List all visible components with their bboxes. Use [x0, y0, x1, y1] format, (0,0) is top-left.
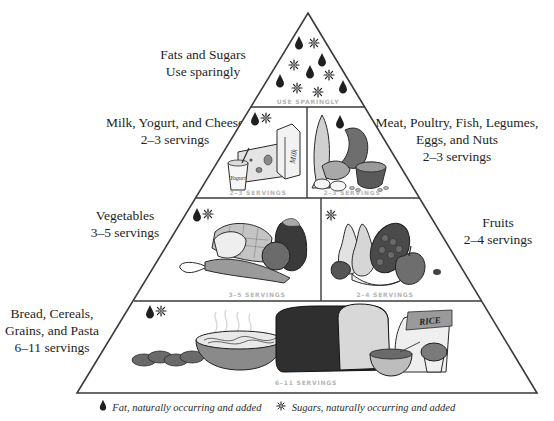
sugar-crystal-icon	[309, 38, 319, 48]
sugar-crystal-icon	[324, 70, 334, 80]
inner-label-vegetables: 3–5 SERVINGS	[228, 291, 285, 298]
legend-item-fat: Fat, naturally occurring and added	[99, 402, 264, 413]
sugar-crystal-icon	[261, 113, 271, 123]
sugar-crystal-icon	[292, 83, 302, 93]
inner-label-fruits: 2–4 SERVINGS	[356, 291, 413, 298]
cup-text: Yogurt	[230, 175, 246, 181]
sugar-crystal-icon	[156, 306, 166, 316]
inner-label-meat: 2–3 SERVINGS	[323, 189, 380, 196]
legend-label-sugar: Sugars, naturally occurring and added	[292, 402, 456, 413]
legend-item-sugar: Sugars, naturally occurring and added	[276, 402, 455, 413]
inner-label-milk: 2–3 SERVINGS	[229, 189, 286, 196]
legend-label-fat: Fat, naturally occurring and added	[112, 402, 261, 413]
sugar-crystal-icon	[203, 209, 213, 219]
sugar-crystal-icon	[326, 210, 336, 220]
food-pyramid: USE SPARINGLY Milk Yogurt 2–3 SERVINGS	[0, 0, 554, 421]
inner-label-grains: 6–11 SERVINGS	[275, 379, 337, 386]
sugar-crystal-icon	[313, 87, 323, 97]
legend: Fat, naturally occurring and added Sugar…	[0, 399, 554, 413]
fat-drop-icon	[99, 399, 107, 411]
inner-label-fats-sugars: USE SPARINGLY	[277, 98, 340, 105]
sugar-crystal-icon	[276, 401, 286, 411]
sugar-crystal-icon	[289, 60, 299, 70]
